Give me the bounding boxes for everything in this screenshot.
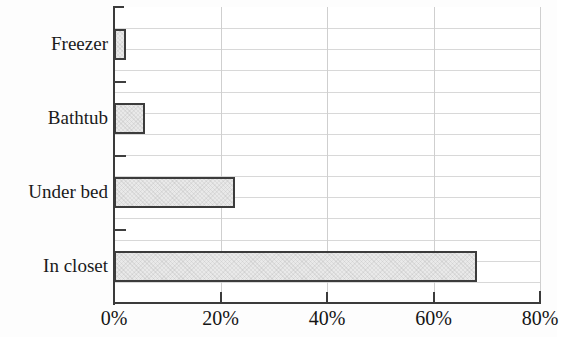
bar	[114, 103, 145, 134]
y-axis-label: Under bed	[1, 182, 113, 201]
y-axis-label: In closet	[1, 256, 113, 275]
y-axis-tick	[114, 229, 126, 231]
x-axis-tick-label: 0%	[88, 308, 140, 328]
bar	[114, 29, 126, 60]
y-axis-label: Bathtub	[1, 108, 113, 127]
x-axis-tick	[220, 292, 222, 304]
plot-area	[114, 7, 540, 303]
y-axis-label: Freezer	[1, 34, 113, 53]
x-axis-tick-label: 60%	[408, 308, 460, 328]
x-axis-tick-label: 80%	[514, 308, 563, 328]
bar	[114, 251, 477, 282]
x-axis-tick	[326, 292, 328, 304]
gridline-vertical	[540, 7, 541, 303]
x-axis-tick-label: 40%	[301, 308, 353, 328]
x-axis-tick	[433, 292, 435, 304]
y-axis-labels: FreezerBathtubUnder bedIn closet	[0, 0, 113, 337]
x-axis-right-cap	[539, 291, 541, 304]
y-axis-tick	[114, 81, 126, 83]
y-axis-tick	[114, 155, 126, 157]
y-axis-top-cap	[113, 6, 124, 8]
bar	[114, 177, 235, 208]
x-axis-tick-label: 20%	[195, 308, 247, 328]
